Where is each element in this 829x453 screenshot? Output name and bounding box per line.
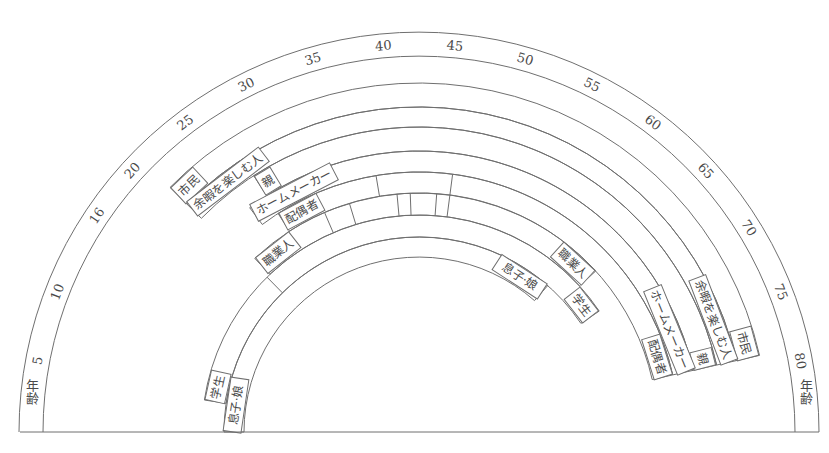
band-divider-line <box>450 174 453 195</box>
age-tick-label: 70 <box>738 217 759 239</box>
age-tick-label: 45 <box>446 37 464 53</box>
age-tick-label: 10 <box>47 281 67 302</box>
role-band <box>187 107 736 365</box>
band-inner-arc <box>262 172 672 375</box>
band-divider-line <box>267 277 282 293</box>
age-tick-label: 40 <box>374 37 392 53</box>
age-tick-label: 75 <box>771 282 791 303</box>
band-outer-arc <box>254 127 717 365</box>
age-tick-label: 65 <box>695 160 717 182</box>
age-ring: 5101620253035404550556065707580年齢年齢 <box>19 32 819 432</box>
band-divider-line <box>410 193 411 215</box>
band-divider-line <box>349 203 355 224</box>
age-tick-label: 30 <box>235 74 257 95</box>
band-outer-arc <box>278 172 673 375</box>
band-outer-arc <box>204 215 599 400</box>
life-career-rainbow-diagram: 5101620253035404550556065707580年齢年齢 市民市民… <box>0 0 829 453</box>
role-band <box>204 215 599 403</box>
band-divider-line <box>447 195 450 217</box>
age-tick-label: 16 <box>86 205 108 227</box>
role-label: 余暇を楽しむ人 <box>692 278 736 362</box>
band-inner-arc <box>244 257 535 432</box>
age-ring-outer-arc <box>19 32 819 432</box>
age-axis-label: 年齢 <box>24 379 39 405</box>
band-outer-arc <box>187 107 736 361</box>
role-band <box>278 172 673 380</box>
age-tick-label: 60 <box>642 112 664 134</box>
age-tick-label: 35 <box>303 49 323 68</box>
band-divider-line <box>397 194 399 216</box>
band-divider-line <box>325 212 334 232</box>
age-tick-label: 80 <box>792 351 810 370</box>
band-divider-line <box>435 194 437 216</box>
age-tick-label: 20 <box>121 159 143 181</box>
band-inner-arc <box>187 107 736 361</box>
age-tick-label: 50 <box>515 49 535 68</box>
age-tick-label: 5 <box>29 355 45 366</box>
age-tick-label: 25 <box>174 111 196 133</box>
band-divider-line <box>376 176 379 197</box>
age-axis-label: 年齢 <box>799 379 814 405</box>
age-ring-inner-arc <box>43 56 795 432</box>
age-tick-label: 55 <box>581 74 603 95</box>
